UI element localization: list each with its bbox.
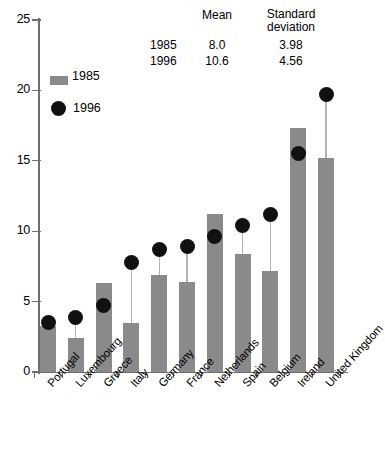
y-axis-tick-label-text: 0	[4, 364, 30, 378]
y-axis-tick	[32, 160, 41, 161]
bar-1985	[151, 275, 167, 372]
connector-stem	[325, 95, 326, 158]
stats-row-year: 1985	[150, 38, 184, 52]
y-axis-tick-label-text: 10	[4, 223, 30, 237]
connector-stem	[131, 262, 132, 323]
stats-row-mean: 10.6	[194, 54, 240, 68]
stats-header-sd-line2: deviation	[258, 21, 324, 34]
y-axis-tick-label-text: 5	[4, 294, 30, 308]
dot-1996	[68, 310, 83, 325]
x-axis-tick	[34, 372, 35, 378]
stats-row-mean: 8.0	[194, 38, 240, 52]
bar-1985	[318, 158, 334, 372]
legend-dot-1996	[51, 101, 66, 116]
bar-1985	[40, 326, 56, 372]
y-axis-tick-label: 5	[0, 294, 30, 308]
dot-1996	[235, 218, 250, 233]
stats-row-sd: 3.98	[258, 38, 324, 52]
dot-1996	[263, 207, 278, 222]
y-axis-tick-label-text: 20	[4, 82, 30, 96]
dot-1996	[41, 315, 56, 330]
legend-swatch-1985	[50, 76, 68, 85]
y-axis-tick	[32, 231, 41, 232]
stats-row: 1996 10.6 4.56	[150, 54, 328, 68]
dot-1996	[319, 87, 334, 102]
stats-header-mean: Mean	[194, 8, 240, 22]
y-axis-tick-label: 0	[0, 364, 30, 378]
connector-stem	[270, 214, 271, 270]
y-axis-tick-label: 10	[0, 223, 30, 237]
stats-header-standard-deviation: Standard deviation	[258, 8, 324, 34]
y-axis-tick	[32, 301, 41, 302]
stats-row-sd: 4.56	[258, 54, 324, 68]
y-axis-line	[38, 18, 40, 374]
dot-1996	[180, 239, 195, 254]
bar-1985	[262, 271, 278, 372]
y-axis-tick-label: 25	[0, 12, 30, 26]
dot-1996	[152, 242, 167, 257]
legend-label-1996: 1996	[73, 101, 101, 115]
dot-1996	[291, 146, 306, 161]
y-axis-tick-label-text: 25	[4, 12, 30, 26]
dot-1996	[124, 255, 139, 270]
bar-1985	[290, 128, 306, 372]
y-axis-tick-label-text: 15	[4, 153, 30, 167]
y-axis-tick	[32, 90, 41, 91]
y-axis-tick	[32, 19, 41, 20]
legend-label-1985: 1985	[72, 69, 100, 83]
y-axis-tick-label: 15	[0, 153, 30, 167]
stats-row: 1985 8.0 3.98	[150, 38, 328, 52]
stats-row-year: 1996	[150, 54, 184, 68]
y-axis-tick-label: 20	[0, 82, 30, 96]
